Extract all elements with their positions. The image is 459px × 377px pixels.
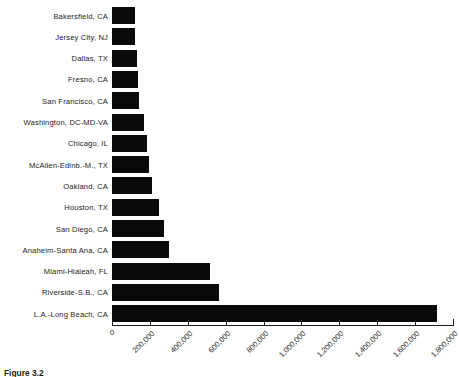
bar	[112, 71, 138, 88]
bar-category-label: Riverside-S.B., CA	[0, 288, 108, 297]
bar	[112, 177, 152, 194]
bar	[112, 199, 159, 216]
bar-row: Miami-Hialeah, FL	[0, 261, 459, 282]
bar-row: Bakersfield, CA	[0, 5, 459, 26]
x-axis-tick	[377, 320, 378, 326]
x-axis-tick-label: 800,000	[244, 329, 270, 355]
bar	[112, 305, 437, 322]
bar-chart: Bakersfield, CAJersey City, NJDallas, TX…	[0, 0, 459, 377]
x-axis-tick	[150, 320, 151, 326]
bar-category-label: Washington, DC-MD-VA	[0, 118, 108, 127]
bar-row: San Francisco, CA	[0, 90, 459, 111]
bar-category-label: Dallas, TX	[0, 54, 108, 63]
bar-row: Chicago, IL	[0, 133, 459, 154]
x-axis-tick-label: 1,600,000	[391, 329, 421, 359]
bar	[112, 114, 144, 131]
x-axis-tick-label: 400,000	[168, 329, 194, 355]
chart-page: Bakersfield, CAJersey City, NJDallas, TX…	[0, 0, 459, 377]
bar-row: L.A.-Long Beach, CA	[0, 303, 459, 324]
bar-row: San Diego, CA	[0, 218, 459, 239]
bar-row: Oakland, CA	[0, 175, 459, 196]
bar-row: Houston, TX	[0, 197, 459, 218]
bar-category-label: San Diego, CA	[0, 224, 108, 233]
bar	[112, 263, 210, 280]
bar-row: Anaheim-Santa Ana, CA	[0, 239, 459, 260]
bar	[112, 284, 219, 301]
bar	[112, 7, 135, 24]
bar-row: Riverside-S.B., CA	[0, 282, 459, 303]
bar-row: Dallas, TX	[0, 48, 459, 69]
bar	[112, 241, 169, 258]
x-axis-tick-label: 1,000,000	[278, 329, 308, 359]
bar	[112, 28, 135, 45]
x-axis-tick-label: 600,000	[206, 329, 232, 355]
bar-row: Fresno, CA	[0, 69, 459, 90]
x-axis-tick	[415, 320, 416, 326]
bar-category-label: L.A.-Long Beach, CA	[0, 309, 108, 318]
x-axis-tick-label: 1,800,000	[429, 329, 459, 359]
bar-category-label: Anaheim-Santa Ana, CA	[0, 245, 108, 254]
bar-category-label: Houston, TX	[0, 203, 108, 212]
bar	[112, 50, 137, 67]
figure-caption-label: Figure 3.2	[4, 368, 44, 377]
x-axis-tick-label: 1,200,000	[315, 329, 345, 359]
x-axis-tick-label: 1,400,000	[353, 329, 383, 359]
x-axis-tick	[188, 320, 189, 326]
bar	[112, 156, 149, 173]
bar-row: McAllen-Edinb.-M., TX	[0, 154, 459, 175]
bar	[112, 135, 147, 152]
x-axis-tick	[112, 320, 113, 326]
x-axis-tick	[264, 320, 265, 326]
bar-category-label: Oakland, CA	[0, 181, 108, 190]
bar-row: Jersey City, NJ	[0, 26, 459, 47]
x-axis-tick	[453, 320, 454, 326]
x-axis-tick-label: 0	[110, 328, 114, 337]
bar-category-label: McAllen-Edinb.-M., TX	[0, 160, 108, 169]
bar-row: Washington, DC-MD-VA	[0, 112, 459, 133]
bar-category-label: Chicago, IL	[0, 139, 108, 148]
x-axis-tick-label: 200,000	[130, 329, 156, 355]
x-axis-tick	[339, 320, 340, 326]
bar-category-label: Fresno, CA	[0, 75, 108, 84]
x-axis-tick	[226, 320, 227, 326]
bar	[112, 92, 139, 109]
bar-category-label: Miami-Hialeah, FL	[0, 267, 108, 276]
x-axis-tick	[301, 320, 302, 326]
bar-category-label: Jersey City, NJ	[0, 32, 108, 41]
figure-caption: Figure 3.2	[4, 368, 44, 377]
bar-category-label: San Francisco, CA	[0, 96, 108, 105]
x-axis-line	[112, 325, 454, 326]
bar	[112, 220, 164, 237]
bar-category-label: Bakersfield, CA	[0, 11, 108, 20]
